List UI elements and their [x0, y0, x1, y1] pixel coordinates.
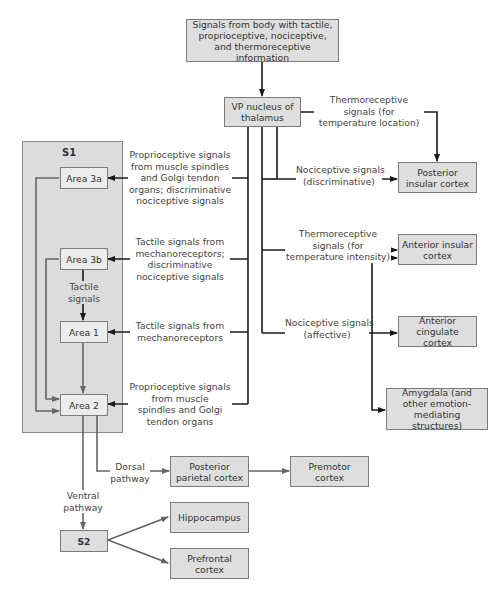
vp-nucleus-box: VP nucleus of thalamus [224, 97, 301, 127]
area-1-box: Area 1 [60, 321, 108, 343]
area-3b-label: Area 3b [66, 254, 102, 265]
dorsal-pathway-label: Dorsal pathway [110, 461, 150, 484]
hippocampus-label: Hippocampus [178, 512, 241, 523]
noci-affective-label: Nociceptive signals (affective) [285, 317, 369, 340]
source-signals-label: Signals from body with tactile, proprioc… [189, 19, 336, 63]
thermo-intensity-label: Thermoreceptive signals (for temperature… [285, 228, 391, 263]
tactile-signals-label: Tactile signals [64, 281, 104, 304]
premotor-box: Premotor cortex [290, 456, 369, 487]
ventral-pathway-label: Ventral pathway [63, 490, 103, 513]
anterior-insular-box: Anterior insular cortex [398, 234, 477, 265]
vp-nucleus-label: VP nucleus of thalamus [227, 101, 298, 123]
area-2-label: Area 2 [69, 400, 99, 411]
amygdala-box: Amygdala (and other emotion-mediating st… [386, 388, 488, 430]
posterior-insular-box: Posterior insular cortex [398, 162, 477, 193]
amygdala-label: Amygdala (and other emotion-mediating st… [389, 387, 485, 431]
to-area-3b-label: Tactile signals from mechanoreceptors; d… [130, 236, 230, 282]
premotor-label: Premotor cortex [293, 461, 366, 483]
prefrontal-label: Prefrontal cortex [173, 553, 246, 575]
area-1-label: Area 1 [69, 327, 99, 338]
thermo-location-label: Thermoreceptive signals (for temperature… [314, 94, 424, 129]
area-2-box: Area 2 [60, 394, 108, 416]
anterior-insular-label: Anterior insular cortex [401, 239, 474, 261]
area-3a-label: Area 3a [66, 173, 102, 184]
noci-discriminative-label: Nociceptive signals (discriminative) [296, 164, 382, 187]
posterior-parietal-box: Posterior parietal cortex [170, 456, 249, 487]
area-3b-box: Area 3b [60, 248, 108, 270]
posterior-insular-label: Posterior insular cortex [401, 167, 474, 189]
prefrontal-box: Prefrontal cortex [170, 548, 249, 579]
to-area-1-label: Tactile signals from mechanoreceptors [130, 320, 230, 343]
hippocampus-box: Hippocampus [170, 502, 249, 533]
s2-box: S2 [60, 530, 108, 552]
anterior-cingulate-box: Anterior cingulate cortex [398, 316, 477, 347]
anterior-cingulate-label: Anterior cingulate cortex [401, 315, 474, 348]
area-3a-box: Area 3a [60, 167, 108, 189]
source-signals-box: Signals from body with tactile, proprioc… [186, 19, 339, 62]
somatosensory-pathway-diagram: S1 [0, 0, 502, 595]
posterior-parietal-label: Posterior parietal cortex [173, 461, 246, 483]
to-area-3a-label: Proprioceptive signals from muscle spind… [128, 149, 232, 207]
to-area-2-label: Proprioceptive signals from muscle spind… [128, 381, 232, 427]
s2-label: S2 [77, 536, 90, 547]
